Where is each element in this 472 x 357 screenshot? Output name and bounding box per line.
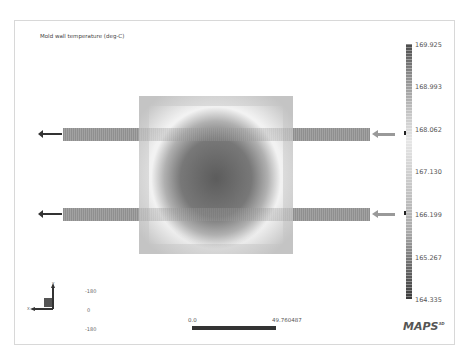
- outlet-arrow-lower-icon: [42, 213, 62, 215]
- axis-tick-mid: 0: [87, 307, 90, 313]
- scale-bar: [192, 326, 276, 330]
- axis-tick-top: -180: [85, 288, 96, 294]
- scale-bar-start: 0.0: [188, 317, 197, 323]
- cooling-channel-upper-overlay: [139, 128, 293, 141]
- legend-label-5: 166.199: [415, 211, 442, 219]
- legend-label-6: 165.267: [415, 254, 442, 262]
- inlet-arrow-upper-icon: [377, 133, 395, 136]
- color-legend-bar: [406, 44, 412, 299]
- legend-label-2: 168.993: [415, 83, 442, 91]
- maps3d-logo: MAPS3D: [403, 320, 445, 333]
- axis-tick-bottom: -180: [85, 326, 96, 332]
- outlet-arrow-upper-icon: [42, 133, 62, 135]
- axis-triad-icon: Y X: [25, 280, 65, 316]
- legend-label-min: 164.335: [415, 296, 442, 304]
- plot-title: Mold wall temperature (deg-C): [40, 33, 124, 39]
- legend-label-max: 169.925: [415, 41, 442, 49]
- legend-marker-upper: [404, 131, 406, 135]
- axis-x-label: X: [27, 306, 30, 311]
- legend-label-3: 168.062: [415, 126, 442, 134]
- scale-bar-end: 49.760487: [272, 317, 302, 323]
- legend-marker-lower: [404, 211, 406, 215]
- inlet-arrow-lower-icon: [377, 213, 395, 216]
- mold-temperature-map: [139, 96, 293, 254]
- cooling-channel-lower-overlay: [139, 208, 293, 221]
- legend-label-4: 167.130: [415, 168, 442, 176]
